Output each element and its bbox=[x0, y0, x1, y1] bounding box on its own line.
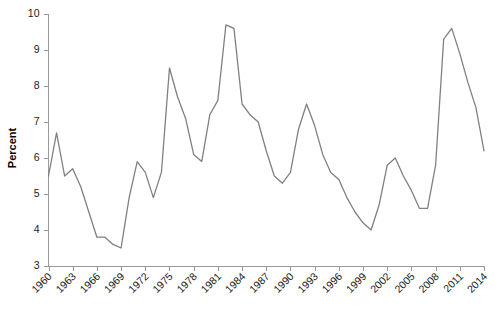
x-axis-group: 1960196319661969197219751978198119841987… bbox=[29, 266, 490, 295]
x-tick-label: 1975 bbox=[150, 270, 175, 295]
x-tick-label: 1993 bbox=[295, 270, 320, 295]
x-tick-label: 1990 bbox=[271, 270, 296, 295]
x-tick-label: 1999 bbox=[343, 270, 368, 295]
y-axis-title: Percent bbox=[6, 127, 18, 168]
x-tick-label: 1978 bbox=[174, 270, 199, 295]
x-tick-label: 1984 bbox=[222, 270, 247, 295]
y-tick-label: 8 bbox=[34, 79, 40, 91]
x-tick-label: 2002 bbox=[368, 270, 393, 295]
x-tick-label: 2014 bbox=[464, 270, 489, 295]
line-chart: 345678910 196019631966196919721975197819… bbox=[0, 0, 499, 313]
x-tick-label: 1963 bbox=[53, 270, 78, 295]
x-tick-label: 2008 bbox=[416, 270, 441, 295]
y-tick-label: 5 bbox=[34, 187, 40, 199]
x-tick-label: 1966 bbox=[77, 270, 102, 295]
x-tick-label: 1972 bbox=[126, 270, 151, 295]
x-tick-label: 1996 bbox=[319, 270, 344, 295]
x-tick-label: 2011 bbox=[441, 270, 466, 295]
y-tick-label: 3 bbox=[34, 259, 40, 271]
y-tick-label: 7 bbox=[34, 115, 40, 127]
y-axis-group: 345678910 bbox=[28, 7, 49, 271]
y-tick-label: 4 bbox=[34, 223, 40, 235]
data-line-percent bbox=[49, 25, 485, 248]
x-tick-label: 1960 bbox=[29, 270, 54, 295]
x-tick-label: 1969 bbox=[101, 270, 126, 295]
x-tick-label: 2005 bbox=[392, 270, 417, 295]
y-tick-label: 6 bbox=[34, 151, 40, 163]
x-tick-label: 1987 bbox=[247, 270, 272, 295]
y-tick-label: 10 bbox=[28, 7, 40, 19]
y-tick-label: 9 bbox=[34, 43, 40, 55]
plot-area: 345678910 196019631966196919721975197819… bbox=[0, 0, 499, 313]
x-tick-label: 1981 bbox=[198, 270, 223, 295]
